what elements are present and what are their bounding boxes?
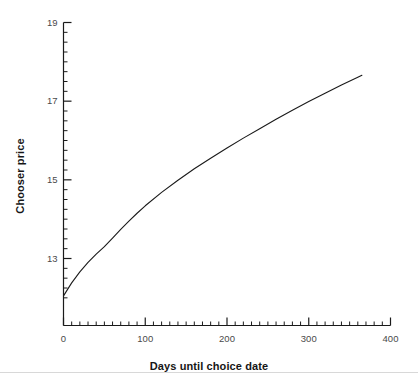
x-tick-label: 200 (207, 333, 247, 344)
x-tick-label: 100 (125, 333, 165, 344)
page-bottom-rule (0, 372, 418, 373)
y-tick-label: 13 (32, 253, 58, 264)
x-tick-label: 0 (44, 333, 84, 344)
y-tick-label: 19 (32, 17, 58, 28)
series-line-0 (64, 75, 362, 296)
line-chart-plot (0, 0, 418, 386)
x-axis-title: Days until choice date (0, 360, 418, 372)
y-tick-label: 17 (32, 95, 58, 106)
y-axis-title: Chooser price (14, 116, 26, 236)
chart-figure: Chooser price Days until choice date 131… (0, 0, 418, 386)
x-tick-label: 300 (289, 333, 329, 344)
x-tick-label: 400 (371, 333, 411, 344)
y-tick-label: 15 (32, 174, 58, 185)
